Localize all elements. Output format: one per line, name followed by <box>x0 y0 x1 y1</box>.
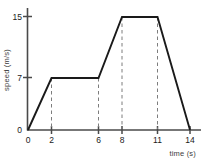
x-tick-label-8: 8 <box>120 135 125 145</box>
speed-time-chart: 15 7 0 0 2 6 8 11 14 speed (m/s) time (s… <box>0 0 209 160</box>
y-axis-title: speed (m/s) <box>2 49 11 91</box>
y-tick-label-7: 7 <box>17 73 22 83</box>
x-axis-title: time (s) <box>169 149 196 158</box>
x-tick-label-6: 6 <box>96 135 101 145</box>
chart-canvas: 15 7 0 0 2 6 8 11 14 speed (m/s) time (s… <box>0 0 209 160</box>
speed-data-line <box>28 17 190 130</box>
origin-label: 0 <box>17 125 22 135</box>
x-tick-label-11: 11 <box>153 135 162 145</box>
x-tick-label-0: 0 <box>26 135 31 145</box>
x-tick-label-2: 2 <box>49 135 54 145</box>
y-tick-label-15: 15 <box>13 12 23 22</box>
x-tick-label-14: 14 <box>185 135 195 145</box>
